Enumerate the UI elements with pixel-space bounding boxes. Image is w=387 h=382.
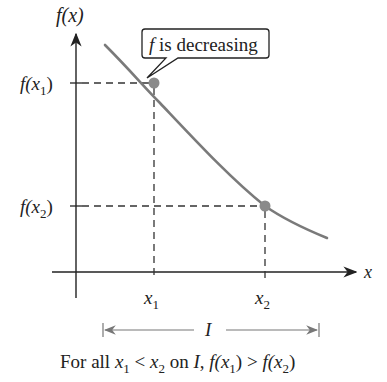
callout-bubble: f is decreasing	[142, 29, 269, 78]
point-x1	[149, 78, 160, 89]
caption: For all x1 < x2 on I, f(x1) > f(x2)	[60, 351, 295, 376]
function-curve	[105, 45, 327, 238]
y-tick-label-2: f(x2)	[20, 196, 53, 221]
x-axis-label: x	[363, 262, 372, 282]
interval-label: I	[204, 319, 213, 340]
y-tick-label-1: f(x1)	[20, 73, 53, 98]
point-x2	[260, 201, 271, 212]
x-tick-label-1: x1	[143, 287, 159, 312]
y-axis-label: f(x)	[56, 4, 84, 27]
x-tick-label-2: x2	[254, 287, 270, 312]
callout-text: f is decreasing	[149, 34, 258, 55]
decreasing-function-diagram: f(x) x f is decreasing f(x1) f(x2) x1 x2	[0, 0, 387, 382]
